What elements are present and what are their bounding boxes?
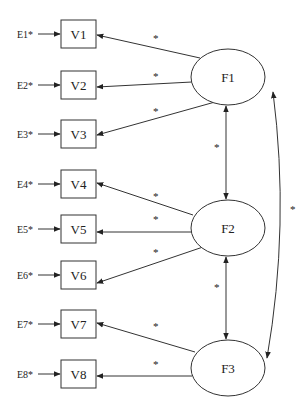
loading-label-v1: * [153,32,159,44]
latent-label-f3: F3 [221,361,235,376]
covariance-label-f2-f3: * [214,281,220,293]
loading-label-v3: * [153,105,159,117]
observed-label-v4: V4 [71,177,87,192]
error-arrows [38,34,60,374]
loading-label-v4: * [153,190,159,202]
observed-label-v8: V8 [71,367,87,382]
error-label-e1: E1* [17,29,33,40]
error-label-e7: E7* [17,319,33,330]
loading-label-v2: * [153,70,159,82]
loading-label-v8: * [153,358,159,370]
error-label-e5: E5* [17,224,33,235]
error-label-e8: E8* [17,369,33,380]
loading-label-v5: * [153,213,159,225]
latent-label-f1: F1 [221,70,235,85]
observed-label-v2: V2 [71,78,87,93]
observed-label-v1: V1 [71,27,87,42]
error-label-e4: E4* [17,179,33,190]
loading-label-v6: * [153,246,159,258]
observed-label-v6: V6 [71,268,87,283]
error-label-e3: E3* [17,129,33,140]
error-label-e6: E6* [17,270,33,281]
loading-label-v7: * [153,320,159,332]
error-label-e2: E2* [17,80,33,91]
observed-label-v5: V5 [71,222,87,237]
latent-label-f2: F2 [221,221,235,236]
covariance-label-f1-f3: * [290,203,296,215]
observed-label-v3: V3 [71,127,87,142]
covariance-label-f1-f2: * [214,141,220,153]
sem-diagram: E1* E2* E3* E4* E5* E6* E7* E8* V1 V2 V3… [0,0,307,411]
observed-label-v7: V7 [71,317,87,332]
